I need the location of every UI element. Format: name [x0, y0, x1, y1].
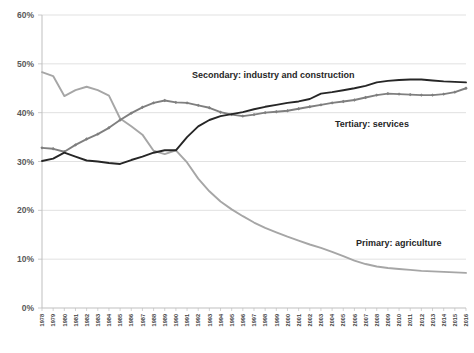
x-axis-tick-label: 2005 — [340, 314, 346, 326]
x-axis-tick-label: 1999 — [274, 314, 280, 326]
x-axis-tick-label: 1985 — [117, 314, 123, 326]
x-axis-tick-label: 2009 — [385, 314, 391, 326]
x-axis-tick-label: 2016 — [463, 314, 469, 326]
x-axis-tick-label: 1995 — [229, 314, 235, 326]
x-axis-tick-label: 1990 — [173, 314, 179, 326]
x-axis-tick-label: 1978 — [39, 314, 45, 326]
x-axis-tick-label: 2013 — [430, 314, 436, 326]
x-axis-tick-label: 2007 — [363, 314, 369, 326]
x-axis-tick-label: 2008 — [374, 314, 380, 326]
x-axis-tick-label: 1996 — [240, 314, 246, 326]
x-axis-tick-label: 1983 — [95, 314, 101, 326]
x-axis-tick-label: 2001 — [296, 314, 302, 326]
x-axis-tick-label: 1992 — [195, 314, 201, 326]
series-annotation-label: Secondary: industry and construction — [192, 70, 355, 80]
x-axis-tick-label: 2004 — [329, 313, 335, 326]
x-axis-tick-label: 1980 — [62, 314, 68, 326]
y-axis-tick-label: 30% — [17, 157, 34, 167]
y-axis-tick-label: 40% — [17, 108, 34, 118]
x-axis-tick-label: 1997 — [251, 314, 257, 326]
y-axis-tick-label: 50% — [17, 59, 34, 69]
y-axis-tick-label: 10% — [17, 254, 34, 264]
x-axis-tick-label: 2003 — [318, 314, 324, 326]
x-axis-tick-label: 2014 — [441, 313, 447, 326]
y-axis-tick-label: 60% — [17, 10, 34, 20]
series-annotation-label: Tertiary: services — [335, 119, 409, 129]
y-axis-tick-label: 20% — [17, 205, 34, 215]
series-annotation-label: Primary: agriculture — [356, 238, 442, 248]
x-axis-tick-label: 1993 — [207, 314, 213, 326]
x-axis-tick-label: 1982 — [84, 314, 90, 326]
y-axis-tick-label: 0% — [22, 303, 35, 313]
x-axis-tick-label: 1991 — [184, 314, 190, 326]
x-axis-tick-label: 2000 — [285, 314, 291, 326]
x-axis-tick-label: 2011 — [407, 314, 413, 326]
x-axis-tick-label: 1979 — [50, 314, 56, 326]
x-axis-tick-label: 1989 — [162, 314, 168, 326]
x-axis-tick-label: 2002 — [307, 314, 313, 326]
x-axis-tick-label: 2010 — [396, 314, 402, 326]
chart-container: 60%50%40%30%20%10%0% 1978197919801981198… — [0, 0, 474, 353]
x-axis-tick-label: 1984 — [106, 313, 112, 326]
x-axis-tick-label: 2006 — [352, 314, 358, 326]
chart-background — [0, 0, 474, 353]
x-axis-tick-label: 1986 — [128, 314, 134, 326]
x-axis-tick-label: 1994 — [218, 313, 224, 326]
x-axis-tick-label: 1987 — [140, 314, 146, 326]
x-axis-tick-label: 1998 — [262, 314, 268, 326]
line-chart: 60%50%40%30%20%10%0% 1978197919801981198… — [0, 0, 474, 353]
x-axis-tick-label: 1981 — [73, 314, 79, 326]
x-axis-tick-label: 1988 — [151, 314, 157, 326]
x-axis-tick-label: 2012 — [419, 314, 425, 326]
x-axis-tick-label: 2015 — [452, 314, 458, 326]
